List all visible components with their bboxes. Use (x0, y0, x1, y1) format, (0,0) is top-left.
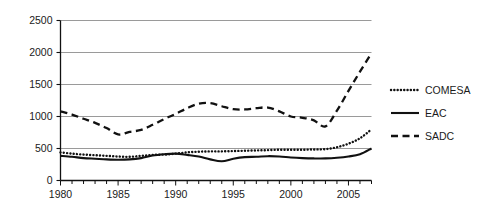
legend-label-eac: EAC (425, 107, 447, 119)
x-tick-label: 2000 (279, 188, 303, 200)
y-tick-label: 0 (47, 174, 53, 186)
data-series-group (61, 53, 372, 161)
y-tick-label: 1000 (29, 110, 53, 122)
x-tick-label: 1995 (222, 188, 246, 200)
y-tick-label: 1500 (29, 78, 53, 90)
chart-legend: COMESAEACSADC (391, 84, 471, 142)
chart-canvas: 05001000150020002500 1980198519901995200… (0, 0, 490, 218)
x-tick-label: 2005 (337, 188, 361, 200)
series-line-comesa (61, 129, 372, 157)
x-tick-label: 1990 (164, 188, 188, 200)
x-tick-label: 1980 (49, 188, 73, 200)
y-axis-tick-labels: 05001000150020002500 (29, 14, 53, 186)
series-line-sadc (61, 53, 372, 134)
y-tick-label: 500 (35, 142, 53, 154)
y-tick-label: 2000 (29, 46, 53, 58)
legend-label-sadc: SADC (425, 130, 455, 142)
legend-label-comesa: COMESA (425, 84, 471, 96)
y-tick-label: 2500 (29, 14, 53, 26)
line-chart: 05001000150020002500 1980198519901995200… (0, 0, 490, 218)
x-tick-label: 1985 (106, 188, 130, 200)
x-axis-ticks (61, 181, 372, 186)
x-axis-tick-labels: 198019851990199520002005 (49, 188, 360, 200)
